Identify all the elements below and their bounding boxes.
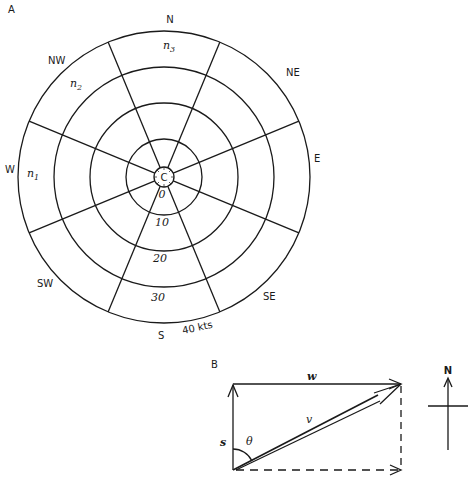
- panel-b-label: B: [211, 359, 218, 370]
- sector-line: [108, 42, 160, 168]
- compass-n-label: N: [444, 365, 452, 376]
- dir-sw: SW: [37, 278, 53, 289]
- sector-line: [168, 42, 220, 168]
- label-s: s: [220, 436, 226, 449]
- center-label: C: [161, 172, 168, 183]
- ring-label-30: 30: [151, 291, 165, 304]
- sector-n2: n2: [70, 77, 82, 92]
- theta-arc: [233, 449, 252, 461]
- vector-v: [233, 395, 378, 470]
- dir-n: N: [166, 14, 173, 25]
- vector-diagram: [228, 378, 468, 475]
- arrowhead-v: [374, 384, 401, 404]
- ring-label-0: 0: [159, 188, 166, 201]
- sector-n3: n3: [163, 39, 175, 54]
- dir-ne: NE: [286, 67, 300, 78]
- dir-s: S: [158, 330, 164, 341]
- sector-line: [173, 181, 299, 233]
- sector-line: [173, 121, 299, 173]
- dir-w: W: [5, 164, 15, 175]
- sector-line: [29, 181, 155, 233]
- label-v: v: [306, 413, 313, 426]
- sector-n1: n1: [27, 167, 39, 182]
- dir-se: SE: [263, 291, 276, 302]
- vector-v-inner: [236, 401, 380, 470]
- label-w: w: [307, 370, 317, 383]
- dir-e: E: [314, 153, 320, 164]
- ring-label-10: 10: [155, 216, 169, 229]
- dir-nw: NW: [48, 55, 65, 66]
- ring-label-20: 20: [152, 252, 167, 265]
- sector-line: [29, 121, 155, 173]
- figure: A C N NE E SE S SW W NW n3 n2 n1 0 10 20…: [0, 0, 469, 485]
- panel-a-label: A: [8, 4, 15, 15]
- sector-line: [168, 186, 220, 312]
- label-theta: θ: [246, 435, 253, 448]
